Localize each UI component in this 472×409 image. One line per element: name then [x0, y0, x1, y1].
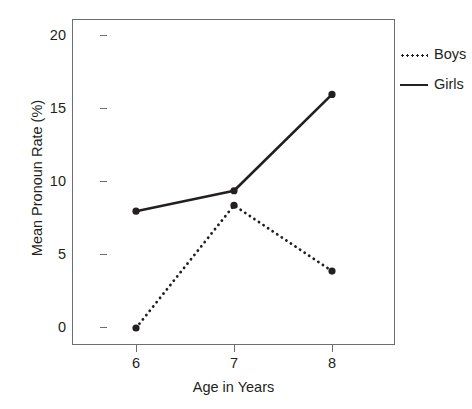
- solid-line-swatch-icon: [400, 84, 428, 86]
- y-tick-label-10: 10: [50, 174, 66, 189]
- y-tick-mark-0: [100, 327, 107, 328]
- chart-figure: 20 15 10 5 0 Mean Pronoun Rate (%) 6 7 8…: [0, 0, 472, 409]
- dotted-line-swatch-icon: [400, 54, 428, 57]
- x-axis-title: Age in Years: [72, 379, 395, 395]
- y-tick-label-20: 20: [50, 28, 66, 43]
- y-tick-label-0: 0: [58, 320, 66, 335]
- legend-label-girls: Girls: [434, 76, 464, 92]
- x-tick-label-8: 8: [312, 355, 352, 371]
- y-tick-mark-5: [100, 254, 107, 255]
- legend: Boys Girls: [396, 44, 472, 104]
- legend-entry-girls[interactable]: Girls: [396, 74, 472, 104]
- plot-area-frame: [72, 19, 395, 345]
- y-tick-mark-15: [100, 108, 107, 109]
- x-tick-mark-6: [136, 345, 137, 352]
- y-tick-label-5: 5: [58, 247, 66, 262]
- x-tick-label-7: 7: [214, 355, 254, 371]
- x-tick-label-6: 6: [116, 355, 156, 371]
- x-tick-mark-8: [332, 345, 333, 352]
- y-axis-title: Mean Pronoun Rate (%): [29, 68, 45, 288]
- y-tick-mark-20: [100, 35, 107, 36]
- legend-label-boys: Boys: [434, 46, 466, 62]
- y-tick-mark-10: [100, 181, 107, 182]
- legend-entry-boys[interactable]: Boys: [396, 44, 472, 74]
- x-tick-mark-7: [234, 345, 235, 352]
- y-tick-label-15: 15: [50, 101, 66, 116]
